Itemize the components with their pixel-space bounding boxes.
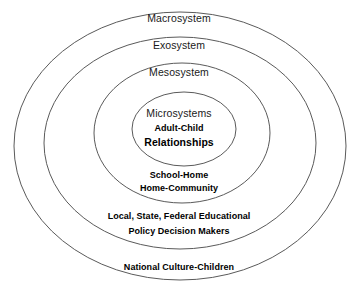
ecological-systems-diagram: Macrosystem Exosystem Mesosystem Microsy…	[0, 0, 358, 301]
ellipse-macrosystem	[14, 12, 346, 280]
ellipse-mesosystem	[94, 63, 270, 203]
ellipse-exosystem	[44, 37, 316, 249]
concentric-ellipses-graphic	[0, 0, 358, 301]
ellipse-microsystems	[132, 92, 236, 166]
